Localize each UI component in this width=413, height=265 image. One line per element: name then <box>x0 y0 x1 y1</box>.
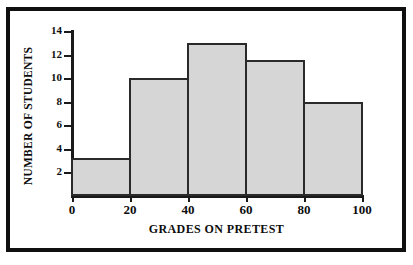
x-axis-tick-label: 80 <box>286 203 322 216</box>
x-axis-tick <box>304 195 306 202</box>
y-axis-tick-label: 4 <box>40 143 62 154</box>
y-axis-tick <box>64 102 72 104</box>
x-axis-tick <box>72 195 74 202</box>
y-axis-tick <box>64 78 72 80</box>
histogram-plot: 2468101214 020406080100 GRADES ON PRETES… <box>0 0 413 265</box>
x-axis-tick <box>188 195 190 202</box>
x-axis-tick-label: 60 <box>228 203 264 216</box>
y-axis-tick-label: 10 <box>40 72 62 83</box>
y-axis-tick-label: 8 <box>40 96 62 107</box>
x-axis-tick <box>362 195 364 202</box>
y-axis-tick <box>64 31 72 33</box>
y-axis-title: NUMBER OF STUDENTS <box>22 31 34 201</box>
x-axis-title: GRADES ON PRETEST <box>71 222 362 237</box>
y-axis-tick-label: 6 <box>40 119 62 130</box>
y-axis-tick-label: 14 <box>40 25 62 36</box>
figure-outer-area: 2468101214 020406080100 GRADES ON PRETES… <box>0 0 413 265</box>
histogram-bar <box>303 102 363 196</box>
x-axis-tick <box>246 195 248 202</box>
x-axis-tick-label: 0 <box>54 203 90 216</box>
x-axis-tick-label: 20 <box>112 203 148 216</box>
y-axis-tick <box>64 55 72 57</box>
histogram-bar <box>129 78 189 196</box>
histogram-bar <box>71 158 131 196</box>
y-axis-tick-label: 2 <box>40 166 62 177</box>
y-axis-tick <box>64 149 72 151</box>
x-axis-tick <box>130 195 132 202</box>
histogram-bar <box>187 43 247 196</box>
x-axis-tick-label: 100 <box>344 203 380 216</box>
x-axis-tick-label: 40 <box>170 203 206 216</box>
y-axis-tick <box>64 125 72 127</box>
y-axis-tick-label: 12 <box>40 49 62 60</box>
histogram-bar <box>245 60 305 196</box>
